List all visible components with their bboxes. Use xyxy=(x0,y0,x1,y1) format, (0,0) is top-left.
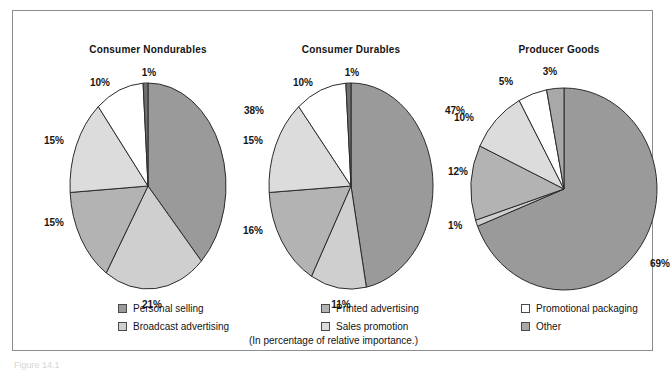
pie-value-label: 15% xyxy=(243,135,263,146)
legend-item-promotional-packaging[interactable]: Promotional packaging xyxy=(521,299,638,317)
pie-value-label: 10% xyxy=(293,77,313,88)
legend-column-3: Promotional packagingOther xyxy=(521,299,638,335)
legend-item-broadcast-advertising[interactable]: Broadcast advertising xyxy=(118,317,229,335)
legend-label: Promotional packaging xyxy=(536,303,638,314)
figure-number: Figure 14.1 xyxy=(14,360,60,370)
pie-value-label: 10% xyxy=(454,112,474,123)
pie-value-label: 69% xyxy=(650,258,670,269)
pie-value-label: 10% xyxy=(90,77,110,88)
legend-swatch-broadcast-advertising xyxy=(118,322,127,331)
legend-label: Personal selling xyxy=(133,303,204,314)
pie-value-label: 1% xyxy=(448,220,463,231)
legend-item-personal-selling[interactable]: Personal selling xyxy=(118,299,229,317)
legend-label: Sales promotion xyxy=(336,321,408,332)
legend-swatch-other xyxy=(521,322,530,331)
legend-swatch-promotional-packaging xyxy=(521,304,530,313)
legend-column-2: Printed advertisingSales promotion xyxy=(321,299,419,335)
pie-value-label: 15% xyxy=(44,217,64,228)
legend-label: Other xyxy=(536,321,561,332)
legend-item-sales-promotion[interactable]: Sales promotion xyxy=(321,317,419,335)
pie-value-label: 16% xyxy=(243,225,263,236)
pie-value-label: 15% xyxy=(44,135,64,146)
legend-swatch-sales-promotion xyxy=(321,322,330,331)
legend-column-1: Personal sellingBroadcast advertising xyxy=(118,299,229,335)
legend-label: Printed advertising xyxy=(336,303,419,314)
pie-value-label: 5% xyxy=(499,76,514,87)
figure-frame: Consumer Nondurables 38%21%15%15%10%1% C… xyxy=(12,10,653,351)
legend-item-printed-advertising[interactable]: Printed advertising xyxy=(321,299,419,317)
legend-item-other[interactable]: Other xyxy=(521,317,638,335)
pie-value-label: 12% xyxy=(448,166,468,177)
legend-swatch-printed-advertising xyxy=(321,304,330,313)
legend-label: Broadcast advertising xyxy=(133,321,229,332)
figure-caption: (In percentage of relative importance.) xyxy=(13,335,654,346)
pie-value-label: 3% xyxy=(543,66,558,77)
legend-swatch-personal-selling xyxy=(118,304,127,313)
